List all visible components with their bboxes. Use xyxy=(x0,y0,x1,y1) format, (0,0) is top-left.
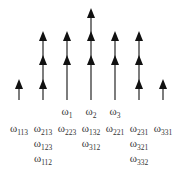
arrowhead-icon xyxy=(135,55,143,65)
omega-label: ω132 xyxy=(82,123,101,138)
arrowhead-icon xyxy=(87,55,95,65)
arrow-column xyxy=(111,31,119,100)
arrowhead-icon xyxy=(39,31,47,41)
omega-label: ω312 xyxy=(82,138,101,153)
omega-label: ω112 xyxy=(34,153,52,168)
omega-label: ω223 xyxy=(58,123,77,138)
arrowhead-icon xyxy=(111,55,119,65)
omega-subscript: 231 xyxy=(137,128,148,137)
arrowhead-icon xyxy=(87,8,95,18)
omega-subscript: 221 xyxy=(113,128,124,137)
omega-label: ω2 xyxy=(86,106,97,121)
omega-subscript: 112 xyxy=(41,158,52,167)
arrowhead-icon xyxy=(39,55,47,65)
omega-label: ω213 xyxy=(34,123,53,138)
arrowhead-icon xyxy=(135,79,143,89)
omega-subscript: 3 xyxy=(117,111,121,120)
omega-subscript: 113 xyxy=(17,128,28,137)
arrow-column xyxy=(159,79,167,100)
arrowhead-icon xyxy=(63,31,71,41)
omega-label: ω231 xyxy=(130,123,149,138)
omega-subscript: 331 xyxy=(161,128,172,137)
omega-label: ω113 xyxy=(10,123,28,138)
omega-label: ω331 xyxy=(154,123,173,138)
omega-subscript: 2 xyxy=(93,111,97,120)
omega-subscript: 132 xyxy=(89,128,100,137)
arrowhead-icon xyxy=(111,31,119,41)
omega-label: ω321 xyxy=(130,138,149,153)
omega-label: ω221 xyxy=(106,123,125,138)
arrowhead-icon xyxy=(159,79,167,89)
omega-label: ω332 xyxy=(130,153,149,168)
arrow-column xyxy=(87,8,95,100)
omega-subscript: 312 xyxy=(89,143,100,152)
arrow-column xyxy=(39,31,47,100)
arrowhead-icon xyxy=(87,31,95,41)
omega-subscript: 223 xyxy=(65,128,76,137)
omega-subscript: 123 xyxy=(41,143,52,152)
arrow-column xyxy=(135,31,143,100)
omega-label: ω1 xyxy=(62,106,73,121)
arrow-column xyxy=(15,79,23,100)
arrowhead-icon xyxy=(15,79,23,89)
omega-label: ω123 xyxy=(34,138,53,153)
arrow-column xyxy=(63,31,71,100)
arrowhead-icon xyxy=(39,79,47,89)
omega-subscript: 213 xyxy=(41,128,52,137)
arrowhead-icon xyxy=(63,55,71,65)
omega-subscript: 321 xyxy=(137,143,148,152)
omega-subscript: 332 xyxy=(137,158,148,167)
arrowhead-icon xyxy=(135,31,143,41)
omega-label: ω3 xyxy=(110,106,121,121)
omega-subscript: 1 xyxy=(69,111,73,120)
